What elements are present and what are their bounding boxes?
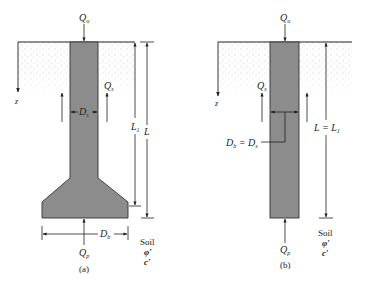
soil-label-a: Soil bbox=[140, 237, 155, 247]
caption-a: (a) bbox=[79, 264, 89, 274]
panel-a: Qu z Qs Ds L1 L bbox=[14, 12, 155, 274]
soil-c-b: c′ bbox=[322, 248, 329, 258]
caption-b: (b) bbox=[280, 260, 291, 270]
length-label-b: L = L1 bbox=[313, 122, 340, 134]
drilled-shaft-diagram: Qu z Qs Ds L1 L bbox=[0, 0, 368, 283]
load-label-b: Qu bbox=[280, 12, 290, 24]
soil-phi-b: φ′ bbox=[322, 238, 330, 248]
depth-axis-label-a: z bbox=[14, 97, 19, 106]
diameter-label-b: Db = Ds bbox=[225, 137, 258, 149]
point-load-label-b: Qp bbox=[280, 244, 290, 256]
soil-c-a: c′ bbox=[144, 257, 151, 267]
total-length-label-a: L bbox=[143, 126, 150, 137]
soil-label-b: Soil bbox=[318, 228, 333, 238]
panel-b: Qu z Qs Db = Ds L = L1 Qp (b) Soil φ′ bbox=[214, 12, 352, 270]
point-load-label-a: Qp bbox=[79, 247, 89, 259]
soil-phi-a: φ′ bbox=[144, 247, 152, 257]
load-label-a: Qu bbox=[79, 12, 89, 24]
depth-axis-label-b: z bbox=[214, 99, 219, 108]
straight-pile bbox=[270, 42, 299, 218]
